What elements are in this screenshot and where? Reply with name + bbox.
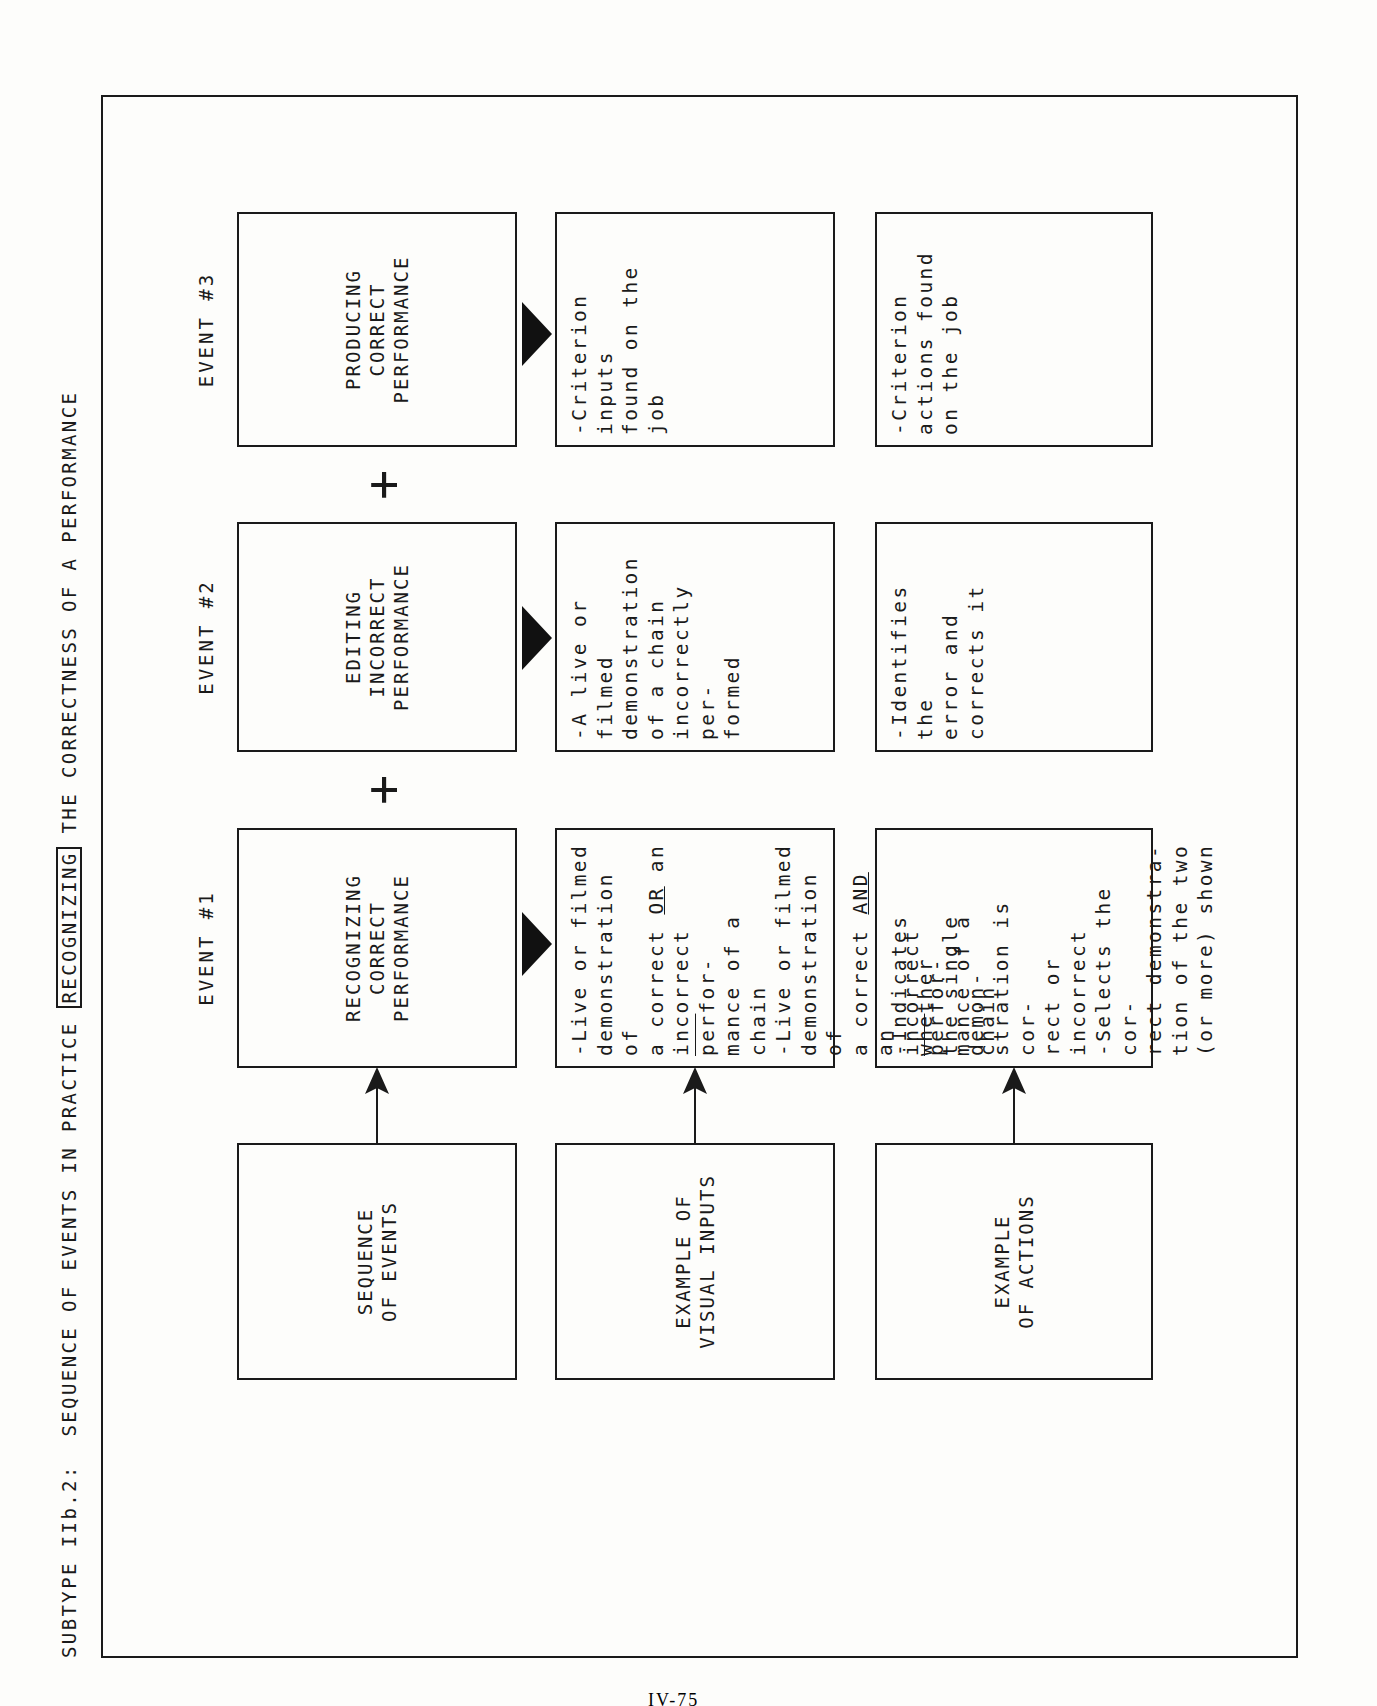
triangle-event-1-icon (522, 912, 552, 976)
triangle-event-3-icon (522, 302, 552, 366)
event-2-visual-inputs: -A live or filmed demonstration of a cha… (555, 522, 835, 752)
page-number: IV-75 (648, 1690, 699, 1706)
event-1-actions: -Indicates whether the single demon- str… (875, 828, 1153, 1068)
event-1-label: EVENT #1 (195, 828, 217, 1068)
diagram-canvas: SUBTYPE IIb.2: SEQUENCE OF EVENTS IN PRA… (0, 0, 1377, 1706)
event-2-label: EVENT #2 (195, 522, 217, 752)
event-3-label: EVENT #3 (195, 212, 217, 447)
row-label-example-of-actions: EXAMPLE OF ACTIONS (875, 1143, 1153, 1380)
event-1-visual-inputs: -Live or filmed demonstration of a corre… (555, 828, 835, 1068)
event-1-box: RECOGNIZING CORRECT PERFORMANCE (237, 828, 517, 1068)
arrowhead-actions-icon (1002, 1067, 1026, 1094)
title-boxed-keyword: RECOGNIZING (56, 847, 82, 1007)
event-3-actions: -Criterion actions found on the job (875, 212, 1153, 447)
arrowhead-sequence-icon (365, 1067, 389, 1094)
event-2-actions: -Identifies the error and corrects it (875, 522, 1153, 752)
plus-connector-1-2: + (358, 765, 408, 815)
event-2-box: EDITING INCORRECT PERFORMANCE (237, 522, 517, 752)
figure-subtype: SUBTYPE IIb.2: (58, 1464, 80, 1658)
plus-connector-2-3: + (358, 460, 408, 510)
triangle-event-2-icon (522, 606, 552, 670)
event-3-visual-inputs: -Criterion inputs found on the job (555, 212, 835, 447)
arrowhead-visual-icon (683, 1067, 707, 1094)
event-3-box: PRODUCING CORRECT PERFORMANCE (237, 212, 517, 447)
figure-title: SUBTYPE IIb.2: SEQUENCE OF EVENTS IN PRA… (58, 391, 80, 1658)
row-label-sequence-of-events: SEQUENCE OF EVENTS (237, 1143, 517, 1380)
row-label-example-of-visual-inputs: EXAMPLE OF VISUAL INPUTS (555, 1143, 835, 1380)
title-text-after: THE CORRECTNESS OF A PERFORMANCE (58, 391, 80, 834)
title-text-before: SEQUENCE OF EVENTS IN PRACTICE (58, 1021, 80, 1436)
